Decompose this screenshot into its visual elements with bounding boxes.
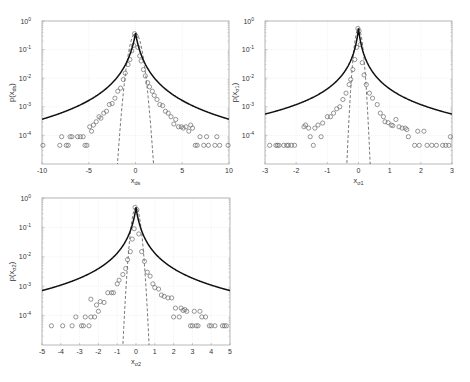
figure-canvas: -10-5051010010-110-210-310-4xdsp(xds) -3… [0,0,470,382]
y-tick-label: 10-3 [19,281,31,290]
x-tick-label: -10 [37,167,47,174]
x-tick-label: -2 [293,167,299,174]
y-axis-label: p(xds) [7,83,17,102]
x-tick-label: -2 [95,348,101,355]
x-axis-label: xσ2 [131,357,141,367]
x-tick-label: 1 [153,348,157,355]
x-tick-label: 4 [209,348,213,355]
x-tick-label: 0 [134,348,138,355]
x-tick-label: 5 [228,348,232,355]
y-tick-label: 10-4 [19,310,31,319]
y-tick-label: 100 [20,193,31,202]
y-tick-label: 10-4 [19,130,31,139]
x-tick-label: -3 [76,348,82,355]
y-tick-label: 10-1 [19,44,31,53]
y-tick-label: 10-2 [242,73,254,82]
chart-panel-sigma2: -5-4-3-2-101234510010-110-210-310-4xσ2p(… [7,193,232,375]
x-tick-label: -5 [39,348,45,355]
y-tick-label: 10-4 [242,130,254,139]
chart-panel-sigma1: -3-2-1012310010-110-210-310-4xσ1p(xσ1) [230,16,454,193]
x-tick-label: 2 [172,348,176,355]
x-tick-label: 3 [450,167,454,174]
y-tick-label: 100 [20,16,31,25]
x-tick-label: -1 [114,348,120,355]
x-axis-label: xσ1 [353,176,363,186]
y-axis-label: p(xσ1) [230,82,240,102]
chart-panel-ds: -10-5051010010-110-210-310-4xdsp(xds) [7,16,233,193]
y-tick-label: 100 [243,16,254,25]
x-tick-label: 5 [180,167,184,174]
y-tick-label: 10-3 [242,101,254,110]
x-axis-label: xds [131,176,141,186]
x-tick-label: 3 [190,348,194,355]
x-tick-label: -3 [262,167,268,174]
y-tick-label: 10-2 [19,251,31,260]
x-tick-label: -4 [58,348,64,355]
x-tick-label: 10 [225,167,233,174]
y-axis-label: p(xσ2) [7,261,17,281]
plot-area [265,21,452,164]
y-tick-label: 10-1 [19,222,31,231]
plot-area [42,21,229,164]
x-tick-label: -5 [86,167,92,174]
y-tick-label: 10-1 [242,44,254,53]
x-tick-label: 0 [357,167,361,174]
y-tick-label: 10-3 [19,101,31,110]
x-tick-label: 1 [388,167,392,174]
x-tick-label: 0 [134,167,138,174]
y-tick-label: 10-2 [19,73,31,82]
x-tick-label: 2 [419,167,423,174]
x-tick-label: -1 [324,167,330,174]
